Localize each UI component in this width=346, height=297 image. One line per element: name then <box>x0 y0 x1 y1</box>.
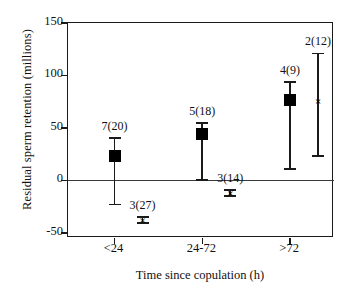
square-marker <box>196 128 208 140</box>
y-tick-label: 150 <box>3 15 63 28</box>
data-point-label: 4(9) <box>255 63 325 78</box>
y-tick-label: 0 <box>3 172 63 185</box>
x-tick-label: <24 <box>74 241 154 256</box>
error-bar-cap <box>284 81 296 83</box>
data-point-label: 3(14) <box>195 171 265 186</box>
y-tick-label: 100 <box>3 67 63 80</box>
error-bar-cap <box>312 155 324 157</box>
y-tick-label: 50 <box>3 120 63 133</box>
square-marker <box>109 150 121 162</box>
x-tick-label: 24-72 <box>161 241 241 256</box>
chart-figure: Residual sperm retention (millions) 7(20… <box>0 0 346 297</box>
error-bar-cap <box>312 53 324 55</box>
error-bar-cap <box>284 168 296 170</box>
data-point-label: 3(27) <box>108 198 178 213</box>
data-point-label: 7(20) <box>80 119 150 134</box>
x-tick-label: >72 <box>249 241 329 256</box>
square-marker <box>284 94 296 106</box>
y-tick-label: -50 <box>3 225 63 238</box>
plot-area: 7(20)5(18)4(9)×3(27)×3(14)×2(12) <box>67 22 333 237</box>
error-bar-line <box>114 138 116 204</box>
data-point-label: 5(18) <box>167 104 237 119</box>
x-axis-title: Time since copulation (h) <box>67 268 333 283</box>
cross-marker: × <box>138 215 148 225</box>
data-point-label: 2(12) <box>283 34 346 49</box>
error-bar-cap <box>196 122 208 124</box>
error-bar-cap <box>109 137 121 139</box>
cross-marker: × <box>313 96 323 106</box>
cross-marker: × <box>225 188 235 198</box>
